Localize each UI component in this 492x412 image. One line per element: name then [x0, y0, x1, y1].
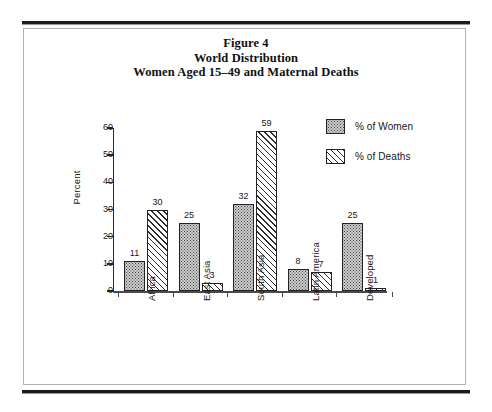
category-label: Developed — [364, 255, 375, 301]
bar-women — [342, 223, 363, 291]
x-tick-mark — [392, 292, 393, 297]
y-tick-label-text: 40 — [87, 177, 113, 186]
y-tick-label-text: 50 — [87, 150, 113, 159]
bar-value-label: 25 — [175, 211, 204, 220]
x-tick-mark — [282, 292, 283, 297]
category-label: Latin America — [310, 242, 321, 301]
x-tick-mark — [118, 292, 119, 297]
bar-value-label: 25 — [338, 211, 367, 220]
y-tick-label-text: 0 — [87, 286, 113, 295]
bar-chart-plot: Percent 0102030405060 1130253325987251 A… — [0, 0, 492, 412]
y-tick-label: 10 — [75, 259, 113, 268]
y-tick-label-text: 20 — [87, 232, 113, 241]
y-tick-label-text: 60 — [87, 123, 113, 132]
y-tick-label: 60 — [75, 123, 113, 132]
y-tick-label: 30 — [75, 205, 113, 214]
y-tick-label: 0 — [75, 286, 113, 295]
x-tick-mark — [336, 292, 337, 297]
y-tick-label: 40 — [75, 177, 113, 186]
bar-women — [179, 223, 200, 291]
category-label: East Asia — [201, 260, 212, 301]
legend-swatch-women-icon — [326, 119, 345, 134]
bar-value-label: 59 — [252, 119, 281, 128]
bar-value-label: 30 — [143, 198, 172, 207]
legend-swatch-deaths-icon — [326, 149, 345, 164]
bar-women — [124, 261, 145, 291]
legend-label-deaths: % of Deaths — [355, 151, 411, 162]
figure-page: Figure 4 World Distribution Women Aged 1… — [0, 0, 492, 412]
bar-women — [233, 204, 254, 291]
x-tick-mark — [173, 292, 174, 297]
bar-value-label: 11 — [120, 249, 149, 258]
x-tick-mark — [227, 292, 228, 297]
category-label: South Asia — [255, 255, 266, 301]
bar-value-label: 32 — [229, 192, 258, 201]
y-axis-line — [113, 128, 114, 292]
y-tick-label-text: 30 — [87, 205, 113, 214]
category-label: Africa — [146, 276, 157, 301]
bar-women — [288, 269, 309, 291]
y-tick-label-text: 10 — [87, 259, 113, 268]
y-tick-label: 20 — [75, 232, 113, 241]
y-tick-label: 50 — [75, 150, 113, 159]
legend-label-women: % of Women — [355, 121, 413, 132]
